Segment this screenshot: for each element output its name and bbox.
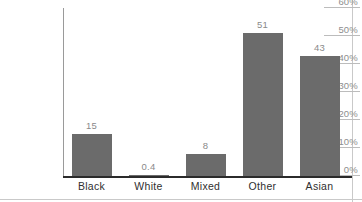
figure-bottom-border (0, 199, 362, 200)
bar-group[interactable]: 0.4 (129, 8, 169, 176)
bar[interactable] (129, 175, 169, 176)
plot-area: 150.485143 (63, 8, 348, 176)
y-axis-tick-label: 60% (338, 0, 358, 7)
bar[interactable] (186, 154, 226, 176)
bar-group[interactable]: 15 (72, 8, 112, 176)
bar-value-label: 8 (186, 140, 226, 151)
bar-value-label: 0.4 (129, 161, 169, 172)
bar[interactable] (300, 56, 340, 176)
x-axis-category-label: Asian (287, 180, 353, 192)
bar-value-label: 43 (300, 42, 340, 53)
x-axis-line (63, 176, 352, 178)
bar-group[interactable]: 51 (243, 8, 283, 176)
bar[interactable] (72, 134, 112, 176)
bar-group[interactable]: 43 (300, 8, 340, 176)
bar-value-label: 15 (72, 120, 112, 131)
bar[interactable] (243, 33, 283, 176)
bar-group[interactable]: 8 (186, 8, 226, 176)
bar-chart-figure: 0%10%20%30%40%50%60% 150.485143 BlackWhi… (0, 0, 362, 202)
bar-value-label: 51 (243, 19, 283, 30)
